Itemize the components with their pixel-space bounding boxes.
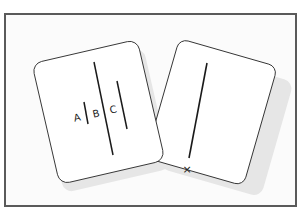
- origin-marker: ×: [182, 163, 191, 176]
- cards-illustration: × A B C: [0, 0, 305, 211]
